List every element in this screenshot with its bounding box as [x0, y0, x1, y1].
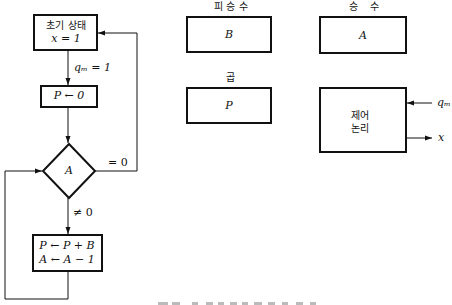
edge-label-nonzero: ≠ 0 [73, 207, 93, 219]
loop-body-line2: A ← A − 1 [39, 254, 94, 266]
figure-caption-cutoff [150, 300, 330, 305]
register-p-name: P [225, 100, 232, 112]
control-input-label: qₘ [437, 97, 451, 109]
edge-label-start: qₘ = 1 [74, 62, 111, 74]
arrow-zero-return [95, 33, 137, 171]
register-p-title: 곱 [226, 72, 235, 84]
loop-body-line1: P ← P + B [39, 240, 94, 252]
edge-label-zero: = 0 [108, 157, 128, 169]
register-b-name: B [225, 29, 233, 41]
decision-label: A [65, 165, 73, 177]
register-a-title: 승 수 [349, 1, 380, 13]
control-output-label: x [438, 132, 444, 144]
register-a-name: A [359, 30, 367, 42]
caption-glyph-tops [150, 300, 330, 305]
control-label-line2: 논리 [351, 123, 369, 135]
clear-p-label: P ← 0 [54, 90, 85, 102]
initial-state-label: 초기 상태 [46, 20, 85, 32]
initial-state-assignment: x = 1 [51, 33, 80, 45]
register-b-title: 피 승 수 [214, 1, 247, 13]
control-label-line1: 제어 [351, 110, 369, 122]
